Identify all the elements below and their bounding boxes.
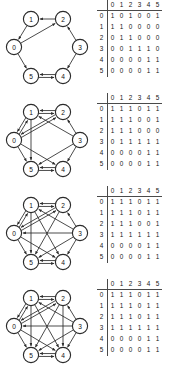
graph-node-5[interactable]: 5 [23,68,38,83]
matrix-cell: 0 [117,345,126,356]
matrix-header-row: 012345 [97,93,162,104]
graph-node-3[interactable]: 3 [72,225,87,240]
matrix-cell: 1 [153,104,162,116]
graph-edge [21,118,56,138]
graph-edge [21,23,56,43]
graph-edge [18,333,27,348]
node-label: 5 [29,259,33,266]
node-label: 1 [29,16,33,23]
graph-node-0[interactable]: 0 [6,225,21,240]
matrix-cell: 0 [135,197,144,209]
matrix-cell: 1 [126,137,135,148]
matrix-col-header: 3 [135,93,144,104]
edge-layer [17,111,76,171]
matrix-cell: 1 [153,312,162,323]
graph-edge [68,306,76,320]
matrix-cell: 1 [153,137,162,148]
matrix-cell: 1 [126,208,135,219]
graph-node-5[interactable]: 5 [23,347,38,362]
graph-node-1[interactable]: 1 [23,197,38,212]
matrix-col-header: 2 [126,0,135,11]
matrix-row-header: 3 [97,323,108,334]
matrix-cell: 1 [144,66,153,77]
graph-1: 012345 [0,0,95,93]
matrix-cell: 1 [153,115,162,126]
matrix-cell: 1 [144,159,153,170]
graph-node-5[interactable]: 5 [23,161,38,176]
matrix-cell: 1 [144,148,153,159]
matrix-col-header: 1 [117,0,126,11]
matrix-cell: 0 [144,11,153,23]
matrix-row-header: 0 [97,197,108,209]
graph-node-0[interactable]: 0 [6,39,21,54]
matrix-cell: 1 [126,44,135,55]
graph-node-4[interactable]: 4 [55,161,70,176]
matrix-cell: 1 [126,230,135,241]
matrix-container: 0123450111011111100121110003011111400001… [97,93,175,186]
matrix-cell: 0 [135,22,144,33]
graph-container: 012345 [0,0,95,93]
matrix-cell: 0 [117,241,126,252]
matrix-cell: 1 [153,301,162,312]
graph-node-2[interactable]: 2 [55,290,70,305]
graph-node-1[interactable]: 1 [23,290,38,305]
panel-4: 0123450123450111011111101121110113111111… [0,279,175,372]
matrix-row: 2111001 [97,219,162,230]
matrix-row-header: 5 [97,345,108,356]
matrix-row-header: 4 [97,334,108,345]
matrix-cell: 1 [144,241,153,252]
matrix-row: 2011000 [97,33,162,44]
matrix-col-header: 3 [135,186,144,197]
matrix-cell: 1 [153,323,162,334]
graph-edge [68,213,76,227]
graph-node-3[interactable]: 3 [72,39,87,54]
matrix-cell: 1 [153,55,162,66]
graph-node-1[interactable]: 1 [23,104,38,119]
graph-node-0[interactable]: 0 [6,132,21,147]
matrix-cell: 0 [117,66,126,77]
graph-node-1[interactable]: 1 [23,11,38,26]
matrix-row: 3111111 [97,230,162,241]
matrix-cell: 1 [117,290,126,302]
graph-node-4[interactable]: 4 [55,254,70,269]
graph-node-4[interactable]: 4 [55,68,70,83]
matrix-cell: 1 [153,290,162,302]
graph-node-4[interactable]: 4 [55,347,70,362]
matrix-cell: 0 [144,33,153,44]
graph-node-3[interactable]: 3 [72,132,87,147]
graph-node-2[interactable]: 2 [55,104,70,119]
graph-node-5[interactable]: 5 [23,254,38,269]
matrix-row: 1111011 [97,208,162,219]
graph-3: 012345 [0,186,95,279]
graph-node-3[interactable]: 3 [72,318,87,333]
matrix-cell: 1 [108,208,118,219]
matrix-cell: 1 [153,334,162,345]
matrix-row-header: 5 [97,252,108,263]
matrix-cell: 0 [144,22,153,33]
matrix-cell: 1 [153,252,162,263]
matrix-row: 3001110 [97,44,162,55]
matrix-col-header: 1 [117,93,126,104]
matrix-cell: 1 [144,323,153,334]
graph-node-0[interactable]: 0 [6,318,21,333]
graph-node-2[interactable]: 2 [55,197,70,212]
graph-container: 012345 [0,93,95,186]
matrix-cell: 1 [108,219,118,230]
matrix-row-header: 2 [97,33,108,44]
matrix-cell: 0 [144,126,153,137]
matrix-cell: 0 [135,312,144,323]
matrix-cell: 0 [117,148,126,159]
graph-edge [68,27,76,41]
matrix-row-header: 1 [97,208,108,219]
matrix-cell: 1 [153,230,162,241]
matrix-row: 1111001 [97,115,162,126]
graph-edge [18,54,27,69]
matrix-cell: 1 [108,230,118,241]
matrix-col-header: 2 [126,186,135,197]
matrix-cell: 0 [135,33,144,44]
node-label: 5 [29,73,33,80]
matrix-cell: 0 [126,345,135,356]
figure-root: 0123450123450101001111000020110003001110… [0,0,175,372]
graph-edge [21,237,56,258]
graph-node-2[interactable]: 2 [55,11,70,26]
